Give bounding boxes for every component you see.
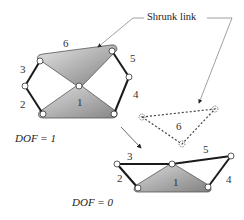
pin-joint — [22, 83, 28, 89]
dof-label-bottom: DOF = 0 — [71, 196, 114, 208]
leader-line-right — [199, 18, 232, 103]
pin-joint — [37, 58, 43, 64]
top-label-1: 1 — [77, 96, 83, 108]
bottom-label-3: 3 — [127, 150, 133, 162]
top-link-4-bar — [114, 77, 129, 114]
bottom-link-5-bar — [172, 156, 231, 164]
mechanism-diagram: 6 3 2 1 5 4 DOF = 1 Shrunk link 6 3 2 1 — [0, 0, 244, 220]
pin-joint — [205, 184, 211, 190]
pin-joint — [169, 161, 175, 167]
top-label-2: 2 — [20, 98, 26, 110]
bottom-label-1: 1 — [173, 176, 179, 188]
top-mechanism: 6 3 2 1 5 4 DOF = 1 — [14, 37, 139, 144]
pin-joint — [126, 74, 132, 80]
bottom-label-2: 2 — [117, 172, 123, 184]
transition-arrow — [121, 127, 141, 148]
top-label-5: 5 — [130, 52, 136, 64]
pin-joint — [114, 161, 120, 167]
bottom-label-5: 5 — [203, 143, 209, 155]
shrunk-link-callout: Shrunk link — [98, 11, 232, 103]
top-link-6 — [37, 45, 117, 88]
pin-joint — [109, 48, 115, 54]
pin-joint — [228, 153, 234, 159]
callout-label: Shrunk link — [147, 11, 197, 22]
top-label-3: 3 — [20, 63, 26, 75]
bottom-mechanism: 3 2 1 5 4 DOF = 0 — [71, 143, 234, 208]
shrunk-link-6: 6 — [139, 106, 218, 147]
shrunk-label-6: 6 — [176, 120, 182, 132]
pin-joint — [76, 83, 82, 89]
pin-joint — [40, 111, 46, 117]
top-link-2-bar — [25, 86, 43, 114]
top-label-4: 4 — [133, 88, 139, 100]
top-link-3-bar — [25, 61, 40, 86]
pin-joint — [135, 185, 141, 191]
pin-joint — [111, 111, 117, 117]
leader-line-left — [98, 18, 144, 47]
top-link-5-bar — [112, 51, 129, 77]
bottom-label-4: 4 — [226, 173, 232, 185]
top-label-6: 6 — [63, 37, 69, 49]
dof-label-top: DOF = 1 — [14, 132, 56, 144]
